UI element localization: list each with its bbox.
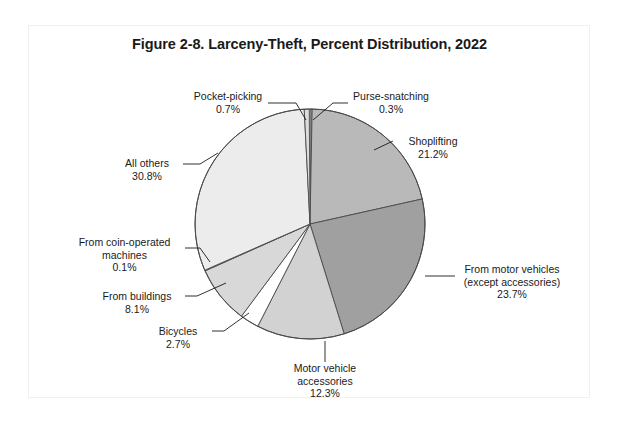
label-from-coin-operated-machines: From coin-operated machines 0.1% [66,236,183,274]
label-from-motor-vehicles-line2: (except accessories) [452,276,572,289]
pie-slices [195,109,425,339]
pie-chart [0,0,619,423]
label-from-motor-vehicles-value: 23.7% [452,288,572,301]
label-motor-vehicle-accessories-line2: accessories [270,375,380,388]
label-from-buildings-value: 8.1% [91,303,183,316]
label-all-others: All others 30.8% [112,157,182,182]
label-bicycles-name: Bicycles [159,325,198,337]
label-motor-vehicle-accessories: Motor vehicle accessories 12.3% [270,362,380,400]
label-motor-vehicle-accessories-line1: Motor vehicle [294,362,356,374]
label-purse-snatching: Purse-snatching 0.3% [345,90,437,115]
label-from-buildings: From buildings 8.1% [91,290,183,315]
label-bicycles-value: 2.7% [146,338,210,351]
label-from-motor-vehicles-line1: From motor vehicles [464,263,559,275]
label-all-others-name: All others [125,157,169,169]
label-bicycles: Bicycles 2.7% [146,325,210,350]
label-motor-vehicle-accessories-value: 12.3% [270,387,380,400]
label-pocket-picking: Pocket-picking 0.7% [186,90,270,115]
label-shoplifting: Shoplifting 21.2% [396,135,470,160]
label-pocket-picking-value: 0.7% [186,103,270,116]
label-shoplifting-name: Shoplifting [408,135,457,147]
figure-page: Figure 2-8. Larceny-Theft, Percent Distr… [0,0,619,423]
label-from-coin-operated-machines-line2: machines [66,249,183,262]
label-from-coin-operated-machines-value: 0.1% [66,261,183,274]
label-shoplifting-value: 21.2% [396,148,470,161]
label-from-buildings-name: From buildings [103,290,172,302]
label-from-motor-vehicles: From motor vehicles (except accessories)… [452,263,572,301]
label-all-others-value: 30.8% [112,170,182,183]
label-purse-snatching-name: Purse-snatching [353,90,429,102]
label-pocket-picking-name: Pocket-picking [194,90,262,102]
label-from-coin-operated-machines-line1: From coin-operated [79,236,171,248]
label-purse-snatching-value: 0.3% [345,103,437,116]
